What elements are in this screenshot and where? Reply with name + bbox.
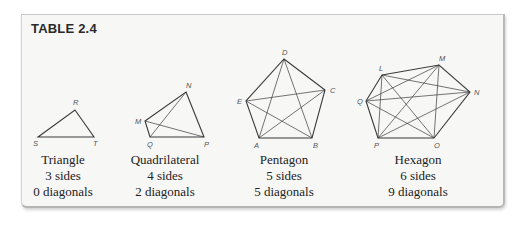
hexagon-caption: Hexagon 6 sides 9 diagonals (358, 152, 478, 200)
quadrilateral-labels: N P Q M (135, 81, 209, 149)
polygon-sides: 6 sides (358, 168, 478, 184)
diagonal-MP (145, 121, 204, 137)
vertex-label-Q: Q (357, 97, 363, 106)
polygon-name: Quadrilateral (105, 152, 225, 168)
polygon-diagonals: 2 diagonals (105, 184, 225, 200)
polygon-sides: 4 sides (105, 168, 225, 184)
polygon-name: Hexagon (358, 152, 478, 168)
pentagon-caption: Pentagon 5 sides 5 diagonals (224, 152, 344, 200)
vertex-label-P: P (374, 141, 379, 150)
vertex-label-O: O (434, 141, 440, 150)
polygon-diagonals: 9 diagonals (358, 184, 478, 200)
hexagon-figure (366, 65, 470, 138)
quadrilateral-figure (145, 92, 204, 137)
vertex-label-C: C (330, 86, 336, 95)
vertex-label-M: M (439, 54, 446, 63)
vertex-label-N: N (474, 88, 480, 97)
pentagon-labels: D C B A E (237, 48, 336, 150)
polygon-name: Pentagon (224, 152, 344, 168)
quadrilateral-caption: Quadrilateral 4 sides 2 diagonals (105, 152, 225, 200)
vertex-label-D: D (282, 48, 288, 57)
vertex-label-B: B (313, 141, 318, 150)
triangle-labels: R T S (33, 98, 99, 148)
diagonal-NQ (150, 92, 186, 137)
triangle-figure (38, 110, 94, 137)
vertex-label-N: N (186, 81, 192, 90)
vertex-label-E: E (237, 97, 243, 106)
vertex-label-Q: Q (147, 140, 153, 149)
vertex-label-S: S (33, 139, 38, 148)
polygon-diagonals: 5 diagonals (224, 184, 344, 200)
vertex-label-L: L (379, 64, 383, 73)
pentagon-figure (246, 59, 325, 138)
vertex-label-P: P (204, 140, 209, 149)
polygon-sides: 5 sides (224, 168, 344, 184)
vertex-label-T: T (93, 139, 99, 148)
vertex-label-R: R (73, 98, 79, 107)
vertex-label-M: M (135, 117, 142, 126)
vertex-label-A: A (253, 141, 259, 150)
